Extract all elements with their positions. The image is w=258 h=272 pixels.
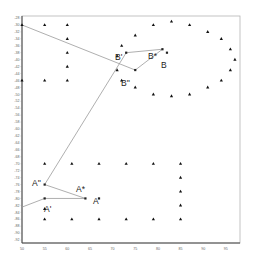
y-tick-label: -80	[14, 197, 19, 201]
label-b-dprime: B''	[121, 78, 130, 88]
y-tick-label: -92	[14, 238, 19, 242]
label-a-dprime: A''	[32, 178, 41, 188]
y-tick-label: -38	[14, 51, 19, 55]
y-tick-label: -78	[14, 190, 19, 194]
y-tick-label: -76	[14, 183, 19, 187]
y-tick-label: -44	[14, 72, 19, 76]
y-tick-label: -86	[14, 217, 19, 221]
x-tick-label: 65	[88, 247, 92, 251]
y-tick-label: -74	[14, 176, 19, 180]
label-a: A	[93, 196, 99, 206]
y-axis-ticks: -28-30-32-34-36-38-40-42-44-46-48-50-52-…	[14, 16, 22, 242]
y-tick-label: -58	[14, 120, 19, 124]
x-tick-label: 55	[43, 247, 47, 251]
x-tick-label: 85	[179, 247, 183, 251]
y-tick-label: -28	[14, 16, 19, 20]
x-tick-label: 90	[201, 247, 205, 251]
y-tick-label: -54	[14, 106, 19, 110]
x-tick-label: 60	[65, 247, 69, 251]
vertex-marker	[84, 197, 86, 199]
x-axis-ticks: 50556065707580859095	[20, 247, 228, 251]
y-tick-label: -84	[14, 211, 19, 215]
y-tick-label: -60	[14, 127, 19, 131]
vertex-marker	[125, 52, 127, 54]
y-tick-label: -36	[14, 44, 19, 48]
label-a-star: A*	[76, 184, 86, 194]
label-a-prime: A'	[44, 204, 52, 214]
vertex-marker	[44, 197, 46, 199]
label-b-prime: B'	[115, 52, 123, 62]
label-b: B	[161, 60, 167, 70]
y-tick-label: -68	[14, 155, 19, 159]
y-tick-label: -32	[14, 30, 19, 34]
plot-frame	[22, 16, 240, 243]
y-tick-label: -46	[14, 79, 19, 83]
y-tick-label: -66	[14, 148, 19, 152]
y-tick-label: -64	[14, 141, 19, 145]
y-tick-label: -52	[14, 99, 19, 103]
y-tick-label: -34	[14, 37, 19, 41]
y-tick-label: -72	[14, 169, 19, 173]
vertex-marker	[134, 69, 136, 71]
y-tick-label: -30	[14, 23, 19, 27]
y-tick-label: -50	[14, 93, 19, 97]
label-b-star: B*	[148, 51, 158, 61]
vertex-marker	[161, 48, 163, 50]
vertex-marker	[44, 183, 46, 185]
y-tick-label: -82	[14, 204, 19, 208]
y-tick-label: -62	[14, 134, 19, 138]
y-tick-label: -90	[14, 231, 19, 235]
y-tick-label: -40	[14, 58, 19, 62]
x-tick-label: 70	[111, 247, 115, 251]
x-tick-label: 50	[20, 247, 24, 251]
y-tick-label: -70	[14, 162, 19, 166]
x-tick-label: 95	[224, 247, 228, 251]
vertex-marker	[166, 52, 168, 54]
y-tick-label: -88	[14, 224, 19, 228]
y-tick-label: -42	[14, 65, 19, 69]
y-tick-label: -48	[14, 86, 19, 90]
y-tick-label: -56	[14, 113, 19, 117]
x-tick-label: 75	[133, 247, 137, 251]
x-tick-label: 80	[156, 247, 160, 251]
scatter-chart: -28-30-32-34-36-38-40-42-44-46-48-50-52-…	[0, 0, 258, 272]
